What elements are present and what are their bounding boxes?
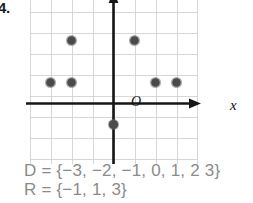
data-point [67, 78, 76, 87]
data-points [30, 0, 198, 164]
coordinate-graph: y x O [30, 0, 198, 164]
data-point [109, 120, 118, 129]
x-axis-label: x [230, 97, 237, 114]
problem-number: 4. [0, 0, 10, 16]
data-point [46, 78, 55, 87]
worksheet-page: 4. [0, 0, 253, 203]
range-set-line: R = {−1, 1, 3} [24, 180, 253, 199]
domain-set-line: D = {−3, −2, −1, 0, 1, 2 3} [24, 161, 253, 180]
data-point [130, 36, 139, 45]
data-point [151, 78, 160, 87]
data-point [67, 36, 76, 45]
answer-block: D = {−3, −2, −1, 0, 1, 2 3} R = {−1, 1, … [24, 161, 253, 199]
origin-label: O [131, 94, 141, 110]
data-point [172, 78, 181, 87]
